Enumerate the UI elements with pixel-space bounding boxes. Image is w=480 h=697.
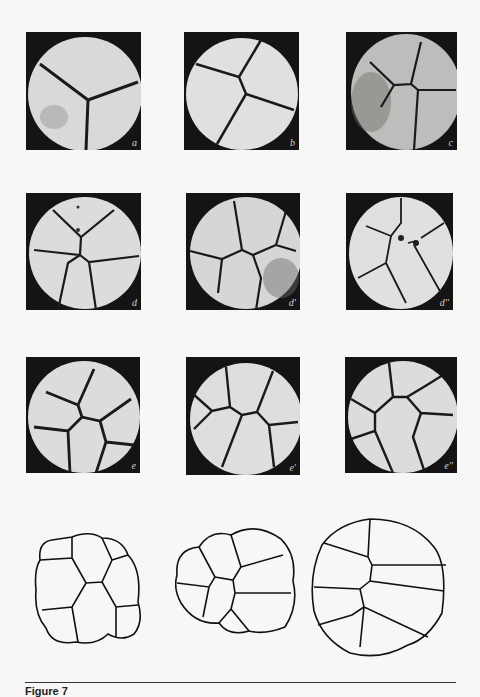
photo-panel-b: b <box>184 32 299 150</box>
embryo-cells-e-double-prime <box>345 357 457 473</box>
cell-diagram-3 <box>308 515 458 665</box>
photo-panel-e: e <box>26 357 140 473</box>
panel-label: d'' <box>440 297 449 308</box>
embryo-cells-d-prime <box>186 193 300 310</box>
embryo-cells-e-prime <box>186 357 300 475</box>
photo-panel-e-prime: e' <box>186 357 300 475</box>
photo-panel-a: a <box>26 32 141 150</box>
cell-diagram-2 <box>175 525 297 643</box>
embryo-cells-d <box>26 193 141 310</box>
caption-rule <box>25 682 456 683</box>
embryo-cells-c <box>346 32 457 150</box>
embryo-cells-a <box>26 32 141 150</box>
panel-label: d' <box>289 297 296 308</box>
embryo-cells-d-double-prime <box>346 193 453 310</box>
photo-panel-c: c <box>346 32 457 150</box>
photo-panel-d: d <box>26 193 141 310</box>
panel-label: c <box>449 137 453 148</box>
embryo-cells-e <box>26 357 140 473</box>
figure-caption-label: Figure 7 <box>25 686 68 697</box>
panel-label: e' <box>289 462 296 473</box>
cell-diagram-1 <box>30 530 142 645</box>
photo-panel-d-prime: d' <box>186 193 300 310</box>
panel-label: e'' <box>444 460 453 471</box>
embryo-cells-b <box>184 32 299 150</box>
photo-panel-d-double-prime: d'' <box>346 193 453 310</box>
panel-label: a <box>132 137 137 148</box>
panel-label: d <box>132 297 137 308</box>
panel-label: e <box>132 460 136 471</box>
photo-panel-e-double-prime: e'' <box>345 357 457 473</box>
panel-label: b <box>290 137 295 148</box>
